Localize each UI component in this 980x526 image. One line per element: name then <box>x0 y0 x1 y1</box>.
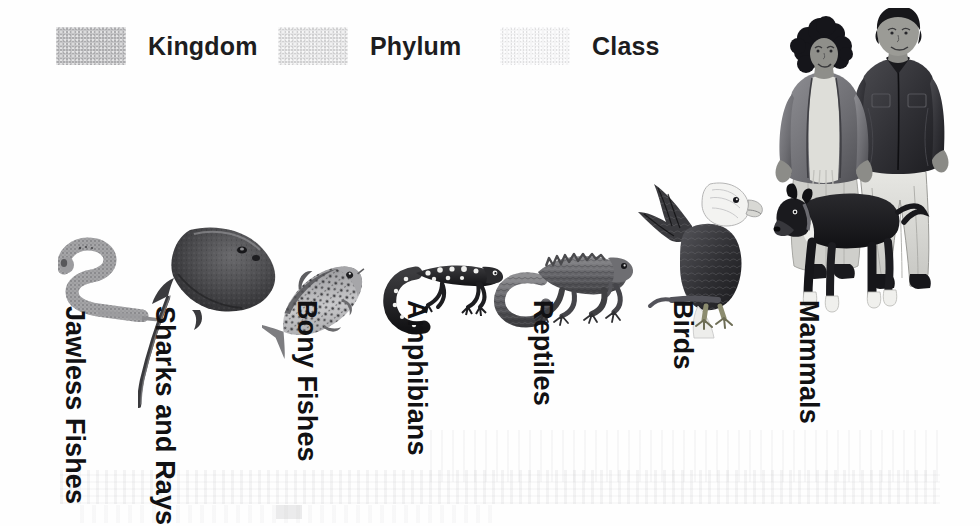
legend-item-kingdom: Kingdom <box>56 26 258 66</box>
iguana-illustration <box>486 228 634 343</box>
group-label-mammals: Mammals <box>795 300 822 424</box>
group-label-sharks-and-rays: Sharks and Rays <box>151 306 178 525</box>
eagle-illustration <box>632 172 768 340</box>
humans-and-dog-illustration <box>768 8 980 338</box>
phylum-swatch-icon <box>278 27 348 65</box>
figure-canvas: Kingdom Phylum Class <box>0 0 980 526</box>
group-label-birds: Birds <box>669 300 696 370</box>
group-label-bony-fishes: Bony Fishes <box>293 300 320 462</box>
scan-artifact-smudge <box>276 505 302 519</box>
class-swatch-icon <box>500 27 570 65</box>
scan-artifact-band <box>80 505 500 523</box>
legend-label-phylum: Phylum <box>370 32 462 61</box>
scan-artifact-band <box>60 470 940 504</box>
kingdom-swatch-icon <box>56 27 126 65</box>
legend-label-class: Class <box>592 32 660 61</box>
legend-label-kingdom: Kingdom <box>148 32 258 61</box>
legend-item-phylum: Phylum <box>278 26 462 66</box>
legend: Kingdom Phylum Class <box>0 0 700 90</box>
group-label-reptiles: Reptiles <box>529 300 556 406</box>
scan-artifact-band <box>430 430 940 482</box>
group-label-jawless-fishes: Jawless Fishes <box>61 306 88 504</box>
legend-item-class: Class <box>500 26 660 66</box>
group-label-amphibians: Amphibians <box>403 300 430 456</box>
